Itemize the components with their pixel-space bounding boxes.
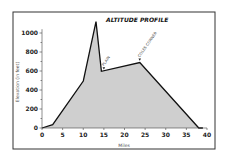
x-tick-label: 20 xyxy=(120,131,128,138)
x-tick-label: 40 xyxy=(203,131,211,138)
annotation-label: PLAIN xyxy=(101,55,112,67)
altitude-profile-chart: ALTITUDE PROFILE 02004006008001000 05101… xyxy=(0,0,226,161)
elevation-area xyxy=(42,22,203,128)
annotations: PLAINCOLES CORNER xyxy=(101,30,158,69)
plot-area xyxy=(42,22,203,128)
y-axis: 02004006008001000 xyxy=(21,29,42,131)
x-tick-label: 25 xyxy=(141,131,149,138)
y-tick-label: 800 xyxy=(25,48,38,55)
x-tick-label: 15 xyxy=(100,131,108,138)
chart-title: ALTITUDE PROFILE xyxy=(105,16,169,23)
x-axis-title: Miles xyxy=(118,143,130,148)
x-tick-label: 0 xyxy=(40,131,44,138)
y-tick-label: 1000 xyxy=(21,29,38,36)
y-axis-title: Elevation (in feet) xyxy=(15,62,20,103)
y-tick-label: 600 xyxy=(25,67,38,74)
y-tick-label: 200 xyxy=(25,105,38,112)
annotation-marker-icon xyxy=(138,58,141,60)
x-tick-label: 35 xyxy=(182,131,190,138)
x-tick-label: 30 xyxy=(162,131,170,138)
x-axis: 0510152025303540 xyxy=(40,128,211,138)
x-tick-label: 10 xyxy=(79,131,87,138)
annotation-marker-icon xyxy=(103,67,106,69)
y-tick-label: 400 xyxy=(25,86,38,93)
y-tick-label: 0 xyxy=(34,124,38,131)
annotation-label: COLES CORNER xyxy=(136,30,157,58)
x-tick-label: 5 xyxy=(61,131,65,138)
